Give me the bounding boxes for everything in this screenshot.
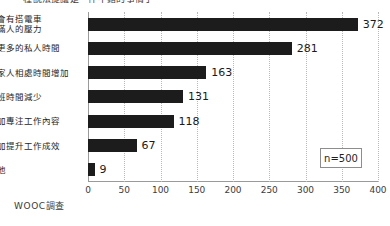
bar (88, 66, 206, 79)
x-tick-label: 150 (188, 184, 205, 196)
bar-row: 118更加專注工作內容 (88, 109, 378, 133)
x-tick-label: 100 (152, 184, 169, 196)
bar (88, 139, 137, 152)
x-axis-tick-labels: 050100150200250300350400 (88, 184, 379, 198)
bar (88, 115, 174, 128)
bar-value-label: 118 (179, 114, 200, 129)
bar-value-label: 372 (363, 17, 384, 32)
x-tick-label: 350 (333, 184, 350, 196)
bar-row: 163與家人相處時間增加 (88, 61, 378, 85)
x-tick-label: 250 (261, 184, 278, 196)
bar-value-label: 163 (211, 65, 232, 80)
chart-title-clipped: 一種說法提議是一件不錯的事情了 (14, 0, 374, 4)
bar-value-label: 9 (100, 162, 107, 177)
bar-row: 281有更多的私人時間 (88, 36, 378, 60)
x-tick-label: 200 (224, 184, 241, 196)
bar-row: 372不會有搭電車 擠滿人的壓力 (88, 12, 378, 36)
bar-value-label: 131 (188, 89, 209, 104)
x-tick-label: 0 (85, 184, 91, 196)
category-label: 更加提升工作成效 (0, 141, 72, 151)
category-label: 更加專注工作內容 (0, 116, 72, 126)
bar-value-label: 67 (142, 138, 156, 153)
category-label: 其他 (0, 165, 72, 175)
bar (88, 42, 292, 55)
bar-value-label: 281 (297, 41, 318, 56)
x-tick-label: 300 (297, 184, 314, 196)
category-label: 加班時間減少 (0, 92, 72, 102)
bar-row: 131加班時間減少 (88, 85, 378, 109)
category-label: 有更多的私人時間 (0, 43, 72, 53)
category-label: 不會有搭電車 擠滿人的壓力 (0, 14, 72, 34)
x-tick-label: 50 (119, 184, 130, 196)
source-note: WOOC調查 (14, 200, 65, 212)
sample-size-badge: n=500 (320, 148, 362, 168)
category-label: 與家人相處時間增加 (0, 68, 72, 78)
bar (88, 90, 183, 103)
x-tick-label: 400 (369, 184, 386, 196)
bar (88, 163, 95, 176)
bar (88, 18, 358, 31)
bar-chart: 一種說法提議是一件不錯的事情了 372不會有搭電車 擠滿人的壓力281有更多的私… (0, 0, 390, 226)
gridline (378, 12, 379, 182)
